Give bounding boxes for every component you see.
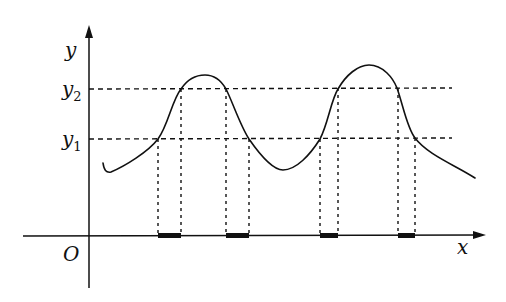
y-axis-arrow-icon	[85, 25, 93, 38]
interval-bar-4	[398, 233, 415, 238]
x-axis-arrow-icon	[473, 231, 486, 239]
y1-label: y1	[61, 127, 82, 154]
y2-label-subscript: 2	[73, 89, 81, 104]
function-curve	[103, 65, 475, 178]
x-axis-label: x	[457, 235, 468, 259]
y2-label: y2	[61, 77, 82, 104]
interval-bar-3	[320, 233, 338, 238]
interval-bar-1	[158, 233, 181, 238]
axes	[23, 25, 486, 288]
function-graph-figure: y y2 y1 O x	[0, 0, 506, 302]
y2-label-main: y	[61, 77, 74, 101]
vertical-dotted-lines	[158, 88, 415, 236]
origin-label: O	[63, 242, 79, 266]
y-axis-label: y	[64, 38, 77, 62]
y1-label-main: y	[61, 127, 74, 151]
interval-bar-2	[226, 233, 249, 238]
y1-label-subscript: 1	[73, 139, 81, 154]
